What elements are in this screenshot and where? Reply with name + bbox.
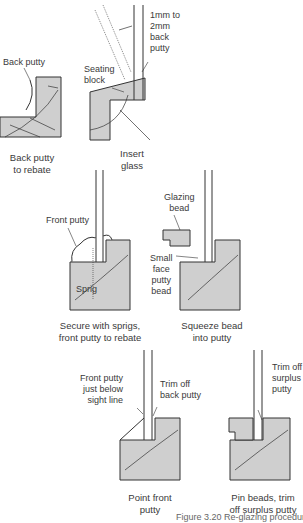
label-small-face-putty-bead: Smallfaceputtybead [150,253,173,297]
step4-frame [163,170,240,310]
label-front-putty-sight-line: Front puttyjust belowsight line [80,373,123,406]
step5-frame [120,350,180,480]
label-back-putty: Back putty [3,57,45,68]
label-seating-block: Seatingblock [84,64,115,86]
caption-step1: Back puttyto rebate [4,152,60,176]
label-trim-back-putty: Trim offback putty [160,379,201,401]
label-sprig: Sprig [76,284,97,295]
label-trim-surplus-putty: Trim offsurplusputty [272,362,302,395]
label-glazing-bead: Glazingbead [164,192,195,214]
step1-frame [0,77,61,137]
label-front-putty: Front putty [46,215,89,226]
figure-caption: Figure 3.20 Re-glazing procedure [176,512,303,522]
caption-step4: Squeeze beadinto putty [180,320,244,344]
caption-step5: Point frontputty [122,492,178,516]
caption-step2: Insertglass [112,148,152,172]
caption-step3: Secure with sprigs,front putty to rebate [55,320,145,344]
label-back-putty-gap: 1mm to2mmbackputty [150,10,180,54]
